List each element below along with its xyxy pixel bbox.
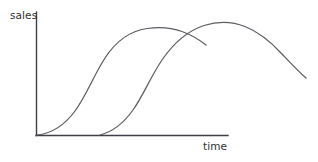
product-life-cycle-chart: sales time (0, 0, 318, 162)
x-axis-label: time (203, 141, 227, 152)
chart-plot-area (0, 0, 318, 162)
sales-curve-1 (37, 28, 206, 135)
y-axis-label: sales (10, 10, 37, 21)
sales-curve-2 (100, 22, 306, 135)
